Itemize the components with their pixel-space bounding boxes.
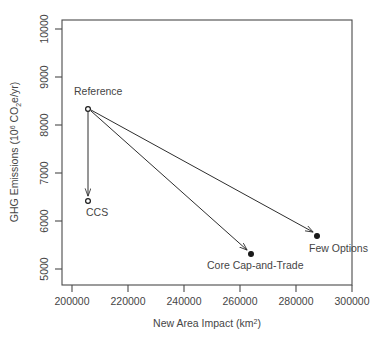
x-tick-label: 200000 (54, 295, 89, 307)
data-points (86, 107, 320, 257)
chart-figure: 10000 9000 8000 7000 6000 5000 GHG Emiss… (0, 0, 370, 340)
point-label-ccs: CCS (86, 206, 108, 218)
point-label-core-cap-and-trade: Core Cap-and-Trade (207, 259, 304, 271)
y-tick-label: 8000 (38, 113, 50, 137)
x-tick-label: 260000 (222, 295, 257, 307)
point-reference[interactable] (86, 107, 91, 112)
y-axis-title: GHG Emissions (106 CO2e/yr) (8, 82, 22, 222)
y-tick-label: 9000 (38, 65, 50, 89)
y-axis-title-part2: CO (8, 107, 20, 126)
y-axis-title-part1: GHG Emissions (10 (8, 129, 20, 222)
y-axis-ticks (55, 29, 62, 269)
y-tick-label: 6000 (38, 209, 50, 233)
x-tick-label: 240000 (166, 295, 201, 307)
y-axis-tick-labels: 10000 9000 8000 7000 6000 5000 (38, 14, 50, 280)
point-labels: Reference CCS Core Cap-and-Trade Few Opt… (74, 85, 368, 271)
x-axis-tick-labels: 200000 220000 240000 260000 280000 30000… (54, 295, 369, 307)
x-axis-title: New Area Impact (km2) (153, 317, 261, 329)
y-tick-label: 10000 (38, 14, 50, 43)
x-tick-label: 280000 (278, 295, 313, 307)
point-core-cap-and-trade[interactable] (249, 252, 254, 257)
arrow-reference-to-few-options (91, 110, 313, 232)
arrow-reference-to-core-cap-and-trade (91, 111, 247, 250)
y-tick-label: 5000 (38, 257, 50, 281)
point-ccs[interactable] (86, 199, 91, 204)
x-tick-label: 300000 (334, 295, 369, 307)
point-label-few-options: Few Options (309, 242, 368, 254)
x-axis-title-tail: ) (257, 317, 261, 329)
arrow-group (88, 110, 313, 250)
x-axis-ticks (72, 285, 352, 292)
y-axis-title-part3: e/yr) (8, 82, 20, 103)
x-axis-title-main: New Area Impact (km (153, 317, 254, 329)
point-label-reference: Reference (74, 85, 123, 97)
x-tick-label: 220000 (110, 295, 145, 307)
scatter-plot-svg: 10000 9000 8000 7000 6000 5000 GHG Emiss… (0, 0, 370, 340)
point-few-options[interactable] (315, 234, 320, 239)
y-tick-label: 7000 (38, 161, 50, 185)
